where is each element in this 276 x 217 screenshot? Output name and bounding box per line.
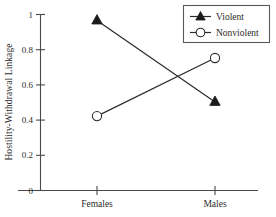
chart-legend: Violent Nonviolent — [184, 6, 270, 43]
y-axis-title: Hostility-Withdrawal Linkage — [4, 43, 14, 160]
open-circle-icon — [196, 28, 205, 37]
series-violent-point-males — [210, 96, 220, 105]
line-chart-canvas: 0 0.2 0.4 0.6 0.8 1 Hostility-Withdrawal… — [0, 0, 276, 217]
legend-label-violent: Violent — [216, 12, 244, 22]
y-tick-label-0-8: 0.8 — [22, 45, 34, 55]
y-tick-label-0: 0 — [29, 186, 34, 196]
y-axis-tick-labels: 0 0.2 0.4 0.6 0.8 1 — [22, 10, 34, 196]
x-tick-label-females: Females — [81, 199, 113, 209]
legend-label-nonviolent: Nonviolent — [216, 28, 259, 38]
chart-figure: 0 0.2 0.4 0.6 0.8 1 Hostility-Withdrawal… — [0, 0, 276, 217]
legend-entry-nonviolent: Nonviolent — [190, 28, 259, 38]
series-nonviolent-point-females — [92, 112, 101, 121]
y-tick-label-0-4: 0.4 — [22, 115, 34, 125]
y-tick-label-0-2: 0.2 — [22, 150, 33, 160]
y-tick-label-0-6: 0.6 — [22, 80, 34, 90]
x-axis-tick-labels: Females Males — [81, 199, 227, 209]
y-tick-label-1: 1 — [29, 10, 34, 20]
series-nonviolent — [92, 53, 219, 120]
series-nonviolent-line — [97, 58, 215, 116]
x-tick-label-males: Males — [203, 199, 227, 209]
series-nonviolent-point-males — [210, 53, 219, 62]
series-violent-point-females — [92, 15, 102, 24]
